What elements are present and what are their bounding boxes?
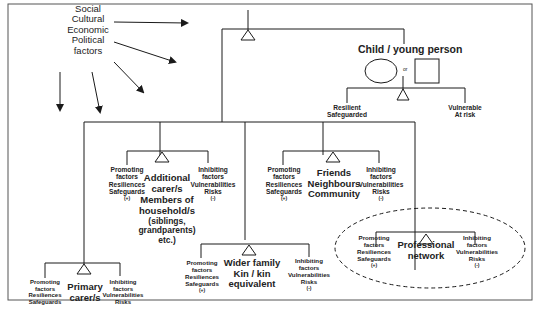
- inhibiting-risks: Risks: [98, 299, 148, 306]
- inhibiting-vulnerabilities: Vulnerabilities: [98, 292, 148, 299]
- inhibiting-sign: (-): [282, 286, 336, 292]
- child-outcome-resilient: Resilient Safeguarded: [322, 104, 372, 119]
- branch-primary: [45, 263, 120, 278]
- additional-inhibiting: Inhibiting factors Vulnerabilities Risks…: [184, 166, 242, 201]
- promoting-sign: (+): [349, 263, 399, 269]
- branch-additional: [127, 151, 208, 165]
- node-wider: Wider family Kin / kin equivalent: [222, 258, 282, 290]
- node-label-line: network: [396, 251, 456, 262]
- inhibiting-factors: factors: [98, 286, 148, 293]
- outcome-safeguarded: Safeguarded: [322, 111, 372, 118]
- inhibiting-label: Inhibiting: [98, 279, 148, 286]
- inhibiting-factors: factors: [184, 173, 242, 180]
- branch-wider: [201, 244, 309, 258]
- top-genogram-node: [241, 10, 255, 40]
- node-label-line: etc.): [138, 236, 196, 246]
- external-factors-label: Social Cultural Economic Political facto…: [62, 4, 114, 56]
- female-symbol: [365, 59, 397, 83]
- professional-inhibiting: Inhibiting factors Vulnerabilities Risks…: [450, 235, 504, 268]
- professional-promoting: Promoting factors Resiliences Safeguards…: [349, 235, 399, 268]
- node-professional: Professional network: [396, 240, 456, 261]
- inhibiting-vulnerabilities: Vulnerabilities: [352, 181, 410, 188]
- wider-inhibiting: Inhibiting factors Vulnerabilities Risks…: [282, 258, 336, 291]
- inhibiting-sign: (-): [184, 196, 242, 202]
- inhibiting-vulnerabilities: Vulnerabilities: [184, 181, 242, 188]
- node-label-line: equivalent: [222, 279, 282, 290]
- factor-factors: factors: [62, 46, 114, 56]
- inhibiting-label: Inhibiting: [184, 166, 242, 173]
- outcome-resilient: Resilient: [322, 104, 372, 111]
- branch-friends: [283, 151, 379, 165]
- primary-inhibiting: Inhibiting factors Vulnerabilities Risks: [98, 279, 148, 306]
- or-label: or: [403, 67, 407, 73]
- child-outcome-vulnerable: Vulnerable At risk: [440, 104, 490, 119]
- inhibiting-sign: (-): [352, 196, 410, 202]
- outcome-vulnerable: Vulnerable: [440, 104, 490, 111]
- male-symbol: [415, 59, 439, 83]
- inhibiting-label: Inhibiting: [352, 166, 410, 173]
- child-title: Child / young person: [358, 44, 462, 56]
- wider-promoting: Promoting factors Resiliences Safeguards…: [176, 260, 228, 293]
- inhibiting-factors: factors: [352, 173, 410, 180]
- outcome-at-risk: At risk: [440, 111, 490, 118]
- promoting-sign: (+): [176, 288, 228, 294]
- friends-inhibiting: Inhibiting factors Vulnerabilities Risks…: [352, 166, 410, 201]
- inhibiting-sign: (-): [450, 263, 504, 269]
